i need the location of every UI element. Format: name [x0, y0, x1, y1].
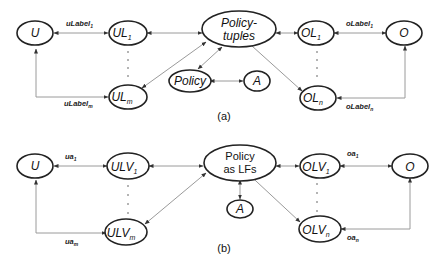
diagram-a: U UL1 ULm Policy- tuples Policy A OL1: [17, 11, 422, 122]
node-ulm-label: UL: [111, 90, 126, 104]
node-olvn[interactable]: OLVn: [299, 216, 341, 242]
node-oln-label: OL: [303, 91, 319, 105]
node-a-b-label: A: [235, 202, 244, 216]
node-u[interactable]: U: [17, 21, 53, 45]
edge-label-olabeln: oLabeln: [346, 102, 373, 112]
svg-text:ULV1: ULV1: [111, 160, 138, 175]
node-o-label: O: [399, 26, 408, 40]
node-o-b-label: O: [405, 160, 414, 174]
edge-policytuples-policy: [198, 47, 222, 69]
edge-olvn-o: [341, 178, 410, 229]
edge-label-oan: oan: [347, 233, 359, 243]
ellipsis-dots-olv: [316, 183, 318, 212]
edge-label-uam: uam: [65, 237, 79, 247]
node-ulm[interactable]: ULm: [109, 85, 147, 109]
node-ulvm-label: ULV: [107, 226, 131, 240]
node-olvn-label: OLV: [302, 223, 326, 237]
node-o[interactable]: O: [386, 21, 422, 45]
node-ol1[interactable]: OL1: [298, 21, 334, 45]
edge-ulvm-policylfs: [145, 173, 206, 224]
node-policy-lfs-line2: as LFs: [223, 163, 257, 175]
node-policy[interactable]: Policy: [169, 70, 211, 92]
node-ulv1[interactable]: ULV1: [107, 153, 149, 179]
ellipsis-dots-ulv: [127, 185, 129, 214]
node-olv1[interactable]: OLV1: [300, 154, 340, 178]
node-policy-tuples-line1: Policy-: [221, 16, 257, 30]
svg-text:OLVn: OLVn: [302, 223, 329, 238]
node-u-label: U: [31, 26, 40, 40]
edge-label-ulabelm: uLabelm: [64, 99, 93, 109]
ellipsis-dots-ul: [127, 51, 129, 77]
node-policy-label: Policy: [174, 74, 207, 88]
node-a-b[interactable]: A: [227, 200, 253, 218]
node-ol1-label: OL: [301, 26, 317, 40]
edge-label-olabel1: oLabel1: [346, 19, 373, 29]
node-policy-lfs[interactable]: Policy as LFs: [204, 145, 276, 181]
node-ul1[interactable]: UL1: [109, 21, 147, 45]
node-u-b[interactable]: U: [17, 154, 53, 178]
node-u-b-label: U: [31, 159, 40, 173]
node-policy-lfs-line1: Policy: [225, 150, 255, 162]
edge-label-ua1: ua1: [65, 152, 77, 162]
node-a[interactable]: A: [244, 71, 270, 91]
node-policy-tuples[interactable]: Policy- tuples: [202, 11, 276, 47]
node-ulvm[interactable]: ULVm: [105, 219, 147, 245]
node-o-b[interactable]: O: [392, 154, 428, 178]
svg-text:OLV1: OLV1: [302, 160, 329, 175]
edge-label-oa1: oa1: [347, 149, 359, 159]
edge-u-ulm: [36, 49, 108, 97]
node-olv1-label: OLV: [302, 160, 326, 174]
edge-u-ulvm: [36, 180, 106, 233]
ellipsis-dots-ol: [316, 51, 318, 77]
node-policy-tuples-line2: tuples: [223, 29, 255, 43]
edge-label-ulabel1: uLabel1: [66, 19, 93, 29]
node-oln[interactable]: OLn: [300, 86, 336, 110]
diagram-canvas: U UL1 ULm Policy- tuples Policy A OL1: [0, 0, 445, 263]
node-ulv1-label: ULV: [111, 160, 135, 174]
caption-a: (a): [217, 110, 230, 122]
node-a-label: A: [252, 74, 261, 88]
caption-b: (b): [217, 242, 230, 254]
edge-oln-o: [337, 46, 405, 98]
node-ul1-label: UL: [112, 26, 127, 40]
diagram-b: U ULV1 ULVm Policy as LFs A OLV1 OLVn: [17, 145, 428, 254]
